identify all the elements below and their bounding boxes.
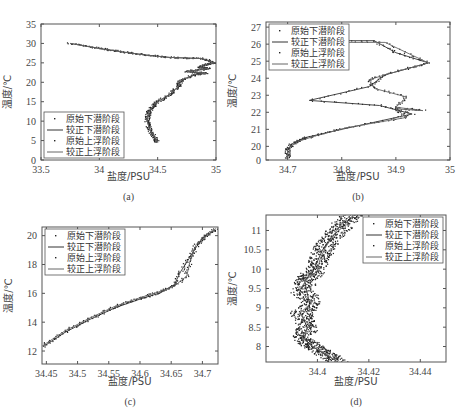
raw-point (300, 328, 301, 329)
raw-point (407, 67, 408, 68)
y-tick-label: 8 (256, 341, 261, 352)
raw-point (305, 277, 306, 278)
raw-point (318, 275, 319, 276)
raw-point (320, 347, 321, 348)
raw-point (306, 318, 307, 319)
raw-point (326, 266, 327, 267)
raw-point (319, 240, 320, 241)
raw-point (150, 134, 151, 135)
y-tick-label: 30 (26, 38, 36, 49)
raw-point (299, 311, 300, 312)
raw-point (299, 342, 300, 343)
raw-point (303, 342, 304, 343)
raw-point (185, 271, 186, 272)
raw-point (117, 304, 118, 305)
panel-d: 34.434.4234.4488.599.51010.511盐度/PSU温度/℃… (226, 214, 446, 408)
raw-point (379, 44, 380, 45)
raw-point (313, 305, 314, 306)
raw-point (308, 290, 309, 291)
raw-point (300, 278, 301, 279)
raw-point (308, 275, 309, 276)
raw-point (294, 340, 295, 341)
y-tick-label: 14 (27, 317, 37, 328)
raw-point (327, 253, 328, 254)
raw-point (181, 278, 182, 279)
raw-point (315, 250, 316, 251)
raw-point (170, 95, 171, 96)
y-tick-label: 21 (251, 124, 261, 135)
raw-point (308, 339, 309, 340)
raw-point (331, 232, 332, 233)
panel-a: 33.53434.53505101520253035盐度/PSU温度/℃(a)原… (1, 19, 221, 204)
raw-point (300, 324, 301, 325)
raw-point (301, 345, 302, 346)
raw-point (207, 73, 208, 74)
raw-point (370, 80, 371, 81)
y-tick-label: 22 (251, 107, 261, 118)
raw-point (295, 310, 296, 311)
raw-point (321, 266, 322, 267)
raw-point (336, 354, 337, 355)
raw-point (324, 257, 325, 258)
raw-point (297, 295, 298, 296)
raw-point (326, 358, 327, 359)
raw-point (342, 226, 343, 227)
raw-point (44, 342, 45, 343)
raw-point (309, 315, 310, 316)
raw-point (318, 241, 319, 242)
raw-point (315, 274, 316, 275)
raw-point (340, 235, 341, 236)
raw-point (332, 354, 333, 355)
raw-point (188, 275, 189, 276)
raw-point (313, 249, 314, 250)
raw-point (307, 331, 308, 332)
raw-point (311, 257, 312, 258)
raw-point (372, 83, 373, 84)
raw-point (394, 50, 395, 51)
raw-point (327, 258, 328, 259)
raw-point (315, 325, 316, 326)
y-axis-label: 温度/℃ (226, 271, 238, 306)
raw-point (329, 257, 330, 258)
raw-point (147, 113, 148, 114)
raw-point (313, 309, 314, 310)
raw-point (333, 249, 334, 250)
raw-point (309, 307, 310, 308)
raw-point (330, 350, 331, 351)
panel-caption: (c) (124, 396, 135, 408)
y-tick-label: 25 (26, 57, 36, 68)
raw-point (171, 94, 172, 95)
raw-point (334, 244, 335, 245)
raw-point (329, 250, 330, 251)
raw-point (312, 254, 313, 255)
raw-point (303, 336, 304, 337)
raw-point (324, 240, 325, 241)
raw-point (296, 289, 297, 290)
raw-point (301, 308, 302, 309)
raw-point (340, 236, 341, 237)
raw-point (317, 276, 318, 277)
raw-point (291, 311, 292, 312)
raw-point (314, 302, 315, 303)
raw-point (336, 358, 337, 359)
raw-point (300, 276, 301, 277)
raw-point (293, 288, 294, 289)
raw-point (150, 126, 151, 127)
raw-point (145, 114, 146, 115)
y-tick-label: 9 (256, 302, 261, 313)
y-tick-label: 12 (27, 346, 37, 357)
raw-point (316, 345, 317, 346)
raw-point (285, 148, 286, 149)
raw-point (298, 289, 299, 290)
raw-point (310, 338, 311, 339)
raw-point (301, 310, 302, 311)
raw-point (318, 303, 319, 304)
raw-point (343, 216, 344, 217)
legend-label: 原始上浮阶段 (291, 47, 345, 58)
raw-point (342, 234, 343, 235)
raw-point (314, 293, 315, 294)
raw-point (314, 268, 315, 269)
raw-point (299, 286, 300, 287)
raw-point (316, 258, 317, 259)
raw-point (321, 237, 322, 238)
